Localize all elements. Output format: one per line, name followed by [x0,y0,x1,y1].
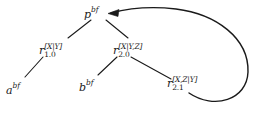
node-p: pbf [84,5,98,21]
node-a: abf [6,81,20,97]
node-b-superscript: bf [86,78,93,87]
node-b-base: b [79,81,86,94]
edge-p-to-r20 [106,20,128,38]
node-r20: r[X|Y,Z]2.0 [113,42,142,59]
node-r10: r[X|Y]1.0 [39,42,62,59]
node-r21-subscript: 2.1 [172,84,197,92]
node-r10-subscript: 1.0 [44,51,62,59]
node-r21: r[X,Z|Y]2.1 [167,75,197,92]
back-arrow-head-icon [108,10,119,17]
node-r21-scripts: [X,Z|Y]2.1 [172,76,197,92]
edge-r10-to-a [25,57,43,77]
node-p-superscript: bf [91,5,98,14]
node-p-base: p [84,8,91,21]
node-r20-subscript: 2.0 [118,51,142,59]
node-r20-scripts: [X|Y,Z]2.0 [118,43,142,59]
edge-r20-to-r21 [131,57,171,79]
node-a-superscript: bf [13,81,20,90]
node-b: bbf [79,78,93,94]
edge-p-to-r10 [68,20,91,38]
derivation-tree-figure: pbf r[X|Y]1.0 r[X|Y,Z]2.0 r[X,Z|Y]2.1 ab… [0,0,261,116]
node-r10-scripts: [X|Y]1.0 [44,43,62,59]
edge-r20-to-b [98,57,117,75]
